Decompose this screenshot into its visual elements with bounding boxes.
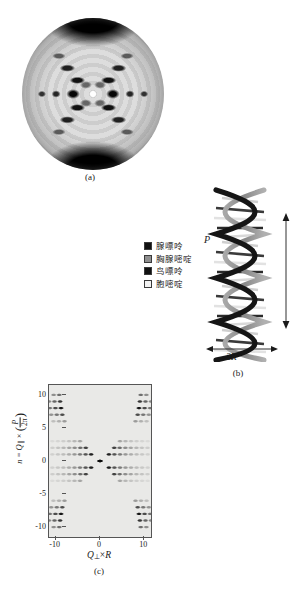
x-axis-title: Q⊥×R	[48, 550, 150, 561]
y-tick-label-1: -5	[39, 489, 46, 498]
y-tick-label-0: -10	[35, 522, 46, 531]
panel-a-caption: (a)	[0, 172, 180, 182]
x-tick-label-0: -10	[49, 540, 60, 549]
base-thymine-swatch	[144, 255, 152, 263]
y-axis-title: n = Q∥ × (P2π)	[12, 398, 29, 478]
panel-b-caption: (b)	[202, 368, 274, 378]
diffraction-plot-frame	[48, 384, 152, 538]
y-tickmark-0	[62, 526, 66, 527]
base-adenine-swatch	[144, 242, 152, 250]
y-tickmark-1	[62, 493, 66, 494]
diameter-arrow	[206, 344, 278, 354]
legend-label-thymine: 胸腺嘧啶	[156, 255, 192, 264]
legend-label-guanine: 鸟嘌呤	[156, 267, 183, 276]
legend-label-adenine: 腺嘌呤	[156, 242, 183, 251]
y-tick-label-3: 5	[42, 422, 46, 431]
panel-c-diffraction-simulation: -10-50510 -10010 n = Q∥ × (P2π) Q⊥×R (c)	[8, 378, 168, 583]
dna-double-helix-illustration	[202, 186, 278, 362]
base-cytosine-swatch	[144, 280, 152, 288]
y-tickmark-2	[62, 460, 66, 461]
x-tickmark-0	[55, 536, 56, 540]
pitch-arrow	[280, 212, 306, 330]
x-tickmark-1	[99, 536, 100, 540]
x-tick-label-2: 10	[139, 540, 147, 549]
panel-b-dna-helix: P 2R (b)	[196, 186, 307, 386]
diameter-label: 2R	[226, 352, 237, 362]
base-guanine-swatch	[144, 267, 152, 275]
y-tick-label-4: 10	[38, 389, 46, 398]
panel-a-xray-diffraction: (a)	[0, 0, 180, 190]
y-tickmark-4	[62, 394, 66, 395]
legend-label-cytosine: 胞嘧啶	[156, 280, 183, 289]
panel-c-caption: (c)	[48, 566, 150, 576]
y-tick-label-2: 0	[42, 456, 46, 465]
x-tickmark-2	[143, 536, 144, 540]
diffraction-intensity-map	[49, 385, 151, 537]
y-tickmark-3	[62, 427, 66, 428]
pitch-label: P	[204, 234, 210, 245]
xray-diffraction-photograph	[22, 18, 164, 170]
x-tick-label-1: 0	[97, 540, 101, 549]
